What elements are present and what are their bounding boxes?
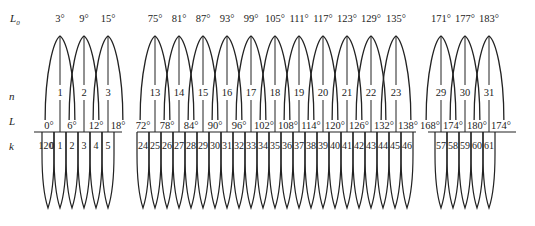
L-label: 102° [254, 120, 274, 131]
n-label: 16 [222, 87, 233, 98]
k-label: 31 [222, 140, 232, 151]
k-label: 24 [138, 140, 148, 151]
L0-label: 75° [148, 13, 163, 24]
k-label: 4 [94, 140, 99, 151]
k-label: 35 [270, 140, 280, 151]
n-label: 29 [436, 87, 447, 98]
k-label: 2 [70, 140, 75, 151]
k-label: 26 [162, 140, 172, 151]
k-label: 27 [174, 140, 184, 151]
L-label: 6° [67, 120, 76, 131]
L0-label: 87° [196, 13, 211, 24]
L0-label: 15° [101, 13, 116, 24]
arc-groups: 3°19°215°30°6°12°18°12001234575°1381°148… [34, 13, 516, 208]
k-label: 60 [472, 140, 482, 151]
L-label: 84° [184, 120, 199, 131]
L-label: 96° [232, 120, 247, 131]
k-label: 46 [402, 140, 412, 151]
L-label: 174° [443, 120, 463, 131]
k-label: 1 [58, 140, 63, 151]
n-label: 19 [294, 87, 305, 98]
k-label: 39 [318, 140, 328, 151]
k-label: 34 [258, 140, 268, 151]
L0-label: 183° [479, 13, 499, 24]
k-label: 59 [460, 140, 470, 151]
n-label: 18 [270, 87, 281, 98]
L-label: 120° [325, 120, 345, 131]
axis-label-L: L [8, 115, 15, 127]
arc-group-middle: 75°1381°1487°1593°1699°17105°18111°19117… [136, 13, 418, 208]
k-label: 5 [106, 140, 111, 151]
L-label: 12° [89, 120, 104, 131]
n-label: 2 [81, 87, 86, 98]
L0-label: 177° [455, 13, 475, 24]
arc-group-right: 171°29177°30183°31168°174°180°174°575859… [420, 13, 516, 208]
n-label: 21 [342, 87, 353, 98]
n-label: 14 [174, 87, 185, 98]
axis-label-n: n [9, 90, 15, 102]
L0-label: 129° [361, 13, 381, 24]
L-label: 132° [374, 120, 394, 131]
L-label: 78° [160, 120, 175, 131]
k-label: 37 [294, 140, 304, 151]
k-label: 43 [366, 140, 376, 151]
n-label: 20 [318, 87, 329, 98]
L-label: 168° [420, 120, 440, 131]
k-label: 32 [234, 140, 244, 151]
k-label: 61 [484, 140, 494, 151]
k-label: 38 [306, 140, 316, 151]
n-label: 1 [57, 87, 62, 98]
L-label: 90° [208, 120, 223, 131]
n-label: 22 [366, 87, 377, 98]
k-label: 25 [150, 140, 160, 151]
n-label: 31 [484, 87, 495, 98]
axis-labels: L0 n L k [8, 12, 20, 152]
k-label: 44 [378, 140, 388, 151]
L0-label: 135° [386, 13, 406, 24]
k-label: 0 [50, 140, 55, 151]
longitude-arc-diagram: L0 n L k 3°19°215°30°6°12°18°12001234575… [0, 0, 535, 226]
k-label: 33 [246, 140, 256, 151]
L-label: 114° [301, 120, 321, 131]
k-label: 45 [390, 140, 400, 151]
L0-label: 111° [289, 13, 308, 24]
k-label: 3 [82, 140, 87, 151]
L-label: 108° [278, 120, 298, 131]
arc-group-left: 3°19°215°30°6°12°18°120012345 [34, 13, 125, 208]
k-label: 30 [210, 140, 220, 151]
L0-label: 93° [220, 13, 235, 24]
L-label: 72° [136, 120, 151, 131]
k-label: 58 [448, 140, 458, 151]
k-label: 57 [436, 140, 446, 151]
k-label: 42 [354, 140, 364, 151]
L-label: 180° [467, 120, 487, 131]
L0-label: 123° [337, 13, 357, 24]
n-label: 17 [246, 87, 257, 98]
L0-label: 105° [265, 13, 285, 24]
L0-label: 81° [172, 13, 187, 24]
k-label: 28 [186, 140, 196, 151]
L-label: 138° [398, 120, 418, 131]
L-label: 0° [44, 120, 53, 131]
k-label: 29 [198, 140, 208, 151]
n-label: 15 [198, 87, 209, 98]
n-label: 13 [150, 87, 161, 98]
L0-label: 99° [244, 13, 259, 24]
L0-label: 9° [79, 13, 88, 24]
n-label: 3 [105, 87, 110, 98]
L-label: 126° [349, 120, 369, 131]
L-label: 18° [111, 120, 126, 131]
axis-label-L0: L0 [9, 12, 20, 27]
L0-label: 3° [55, 13, 64, 24]
n-label: 23 [391, 87, 402, 98]
L-label: 174° [491, 120, 511, 131]
axis-label-k: k [9, 140, 15, 152]
L0-label: 171° [431, 13, 451, 24]
n-label: 30 [460, 87, 471, 98]
L0-label: 117° [313, 13, 333, 24]
k-label: 40 [330, 140, 340, 151]
k-label: 41 [342, 140, 352, 151]
k-label: 36 [282, 140, 292, 151]
